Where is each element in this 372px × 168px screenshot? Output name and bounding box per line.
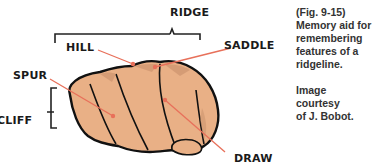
- caption-line: remembering: [296, 32, 372, 45]
- ridgeline-fist-diagram: RIDGE HILL SADDLE SPUR CLIFF DRAW (Fig. …: [0, 0, 372, 168]
- cliff-label: CLIFF: [0, 114, 32, 127]
- image-credit: Image courtesy of J. Bobot.: [296, 84, 372, 123]
- caption-line: (Fig. 9-15): [296, 6, 372, 19]
- cliff-bracket: [47, 88, 57, 128]
- fist-shape: [69, 61, 218, 155]
- hill-label: HILL: [66, 41, 94, 54]
- credit-line: Image courtesy: [296, 84, 372, 110]
- caption-line: Memory aid for: [296, 19, 372, 32]
- draw-label: DRAW: [234, 152, 273, 165]
- saddle-label: SADDLE: [224, 39, 274, 52]
- credit-line: of J. Bobot.: [296, 110, 372, 123]
- spur-label: SPUR: [13, 69, 47, 82]
- ridge-label: RIDGE: [170, 6, 209, 19]
- caption-line: features of a: [296, 45, 372, 58]
- figure-caption: (Fig. 9-15) Memory aid for remembering f…: [296, 6, 372, 71]
- caption-line: ridgeline.: [296, 58, 372, 71]
